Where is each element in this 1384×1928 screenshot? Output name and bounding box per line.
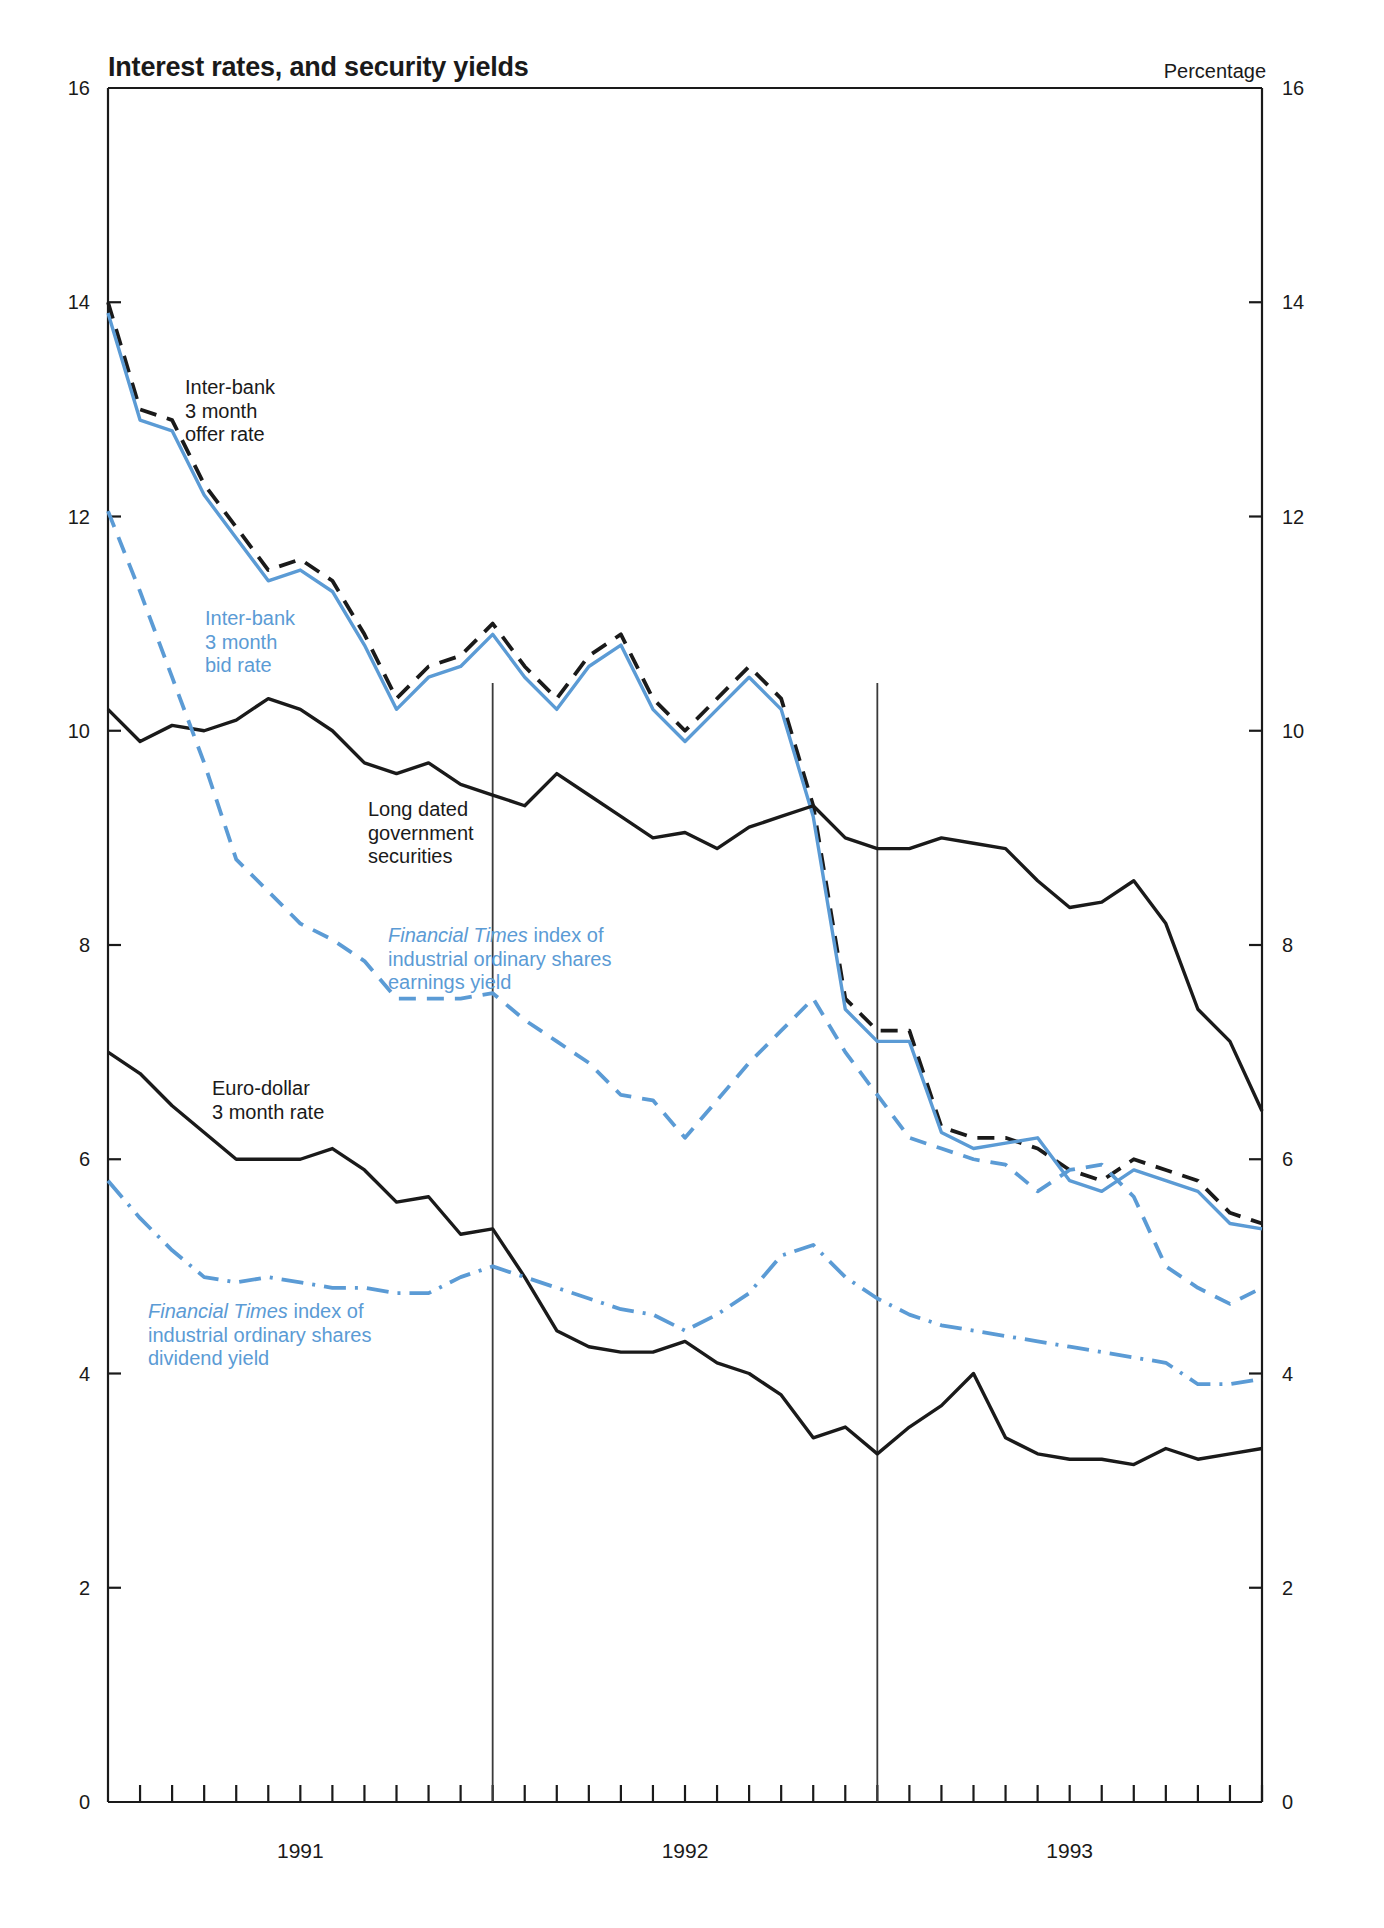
annotation-eurodollar: Euro-dollar 3 month rate xyxy=(212,1077,324,1124)
axis-tick-labels: 00224466881010121214141616199119921993 xyxy=(68,77,1305,1862)
svg-text:2: 2 xyxy=(1282,1577,1293,1599)
ft-earnings-emphasis: Financial Times xyxy=(388,924,528,946)
axes-layer xyxy=(108,88,1262,1802)
svg-text:16: 16 xyxy=(1282,77,1304,99)
data-series-layer xyxy=(108,302,1262,1464)
annotation-interbank-offer: Inter-bank 3 month offer rate xyxy=(185,376,275,447)
annotation-long-dated: Long dated government securities xyxy=(368,798,474,869)
svg-text:8: 8 xyxy=(1282,934,1293,956)
svg-text:12: 12 xyxy=(68,506,90,528)
chart-plot: 00224466881010121214141616199119921993 xyxy=(0,0,1384,1928)
svg-text:4: 4 xyxy=(1282,1363,1293,1385)
svg-text:0: 0 xyxy=(1282,1791,1293,1813)
svg-text:12: 12 xyxy=(1282,506,1304,528)
annotation-interbank-bid: Inter-bank 3 month bid rate xyxy=(205,607,295,678)
svg-text:14: 14 xyxy=(1282,291,1304,313)
svg-text:10: 10 xyxy=(1282,720,1304,742)
svg-text:1991: 1991 xyxy=(277,1839,324,1862)
svg-text:4: 4 xyxy=(79,1363,90,1385)
svg-text:10: 10 xyxy=(68,720,90,742)
svg-text:8: 8 xyxy=(79,934,90,956)
svg-text:0: 0 xyxy=(79,1791,90,1813)
chart-container: Interest rates, and security yields Perc… xyxy=(0,0,1384,1928)
svg-text:16: 16 xyxy=(68,77,90,99)
svg-text:2: 2 xyxy=(79,1577,90,1599)
svg-text:6: 6 xyxy=(1282,1148,1293,1170)
annotation-ft-dividend-yield: Financial Times index of industrial ordi… xyxy=(148,1300,371,1371)
svg-text:14: 14 xyxy=(68,291,90,313)
ft-dividend-emphasis: Financial Times xyxy=(148,1300,288,1322)
svg-text:1993: 1993 xyxy=(1046,1839,1093,1862)
svg-text:1992: 1992 xyxy=(662,1839,709,1862)
annotation-ft-earnings-yield: Financial Times index of industrial ordi… xyxy=(388,924,611,995)
svg-text:6: 6 xyxy=(79,1148,90,1170)
